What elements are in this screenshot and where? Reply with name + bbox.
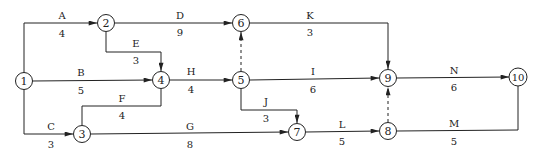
node-9: 9 (380, 70, 397, 87)
node-label: 5 (238, 74, 245, 87)
activity-duration-n: 6 (451, 82, 457, 93)
network-diagram: A 4 B 5 C 3 D 9 E 3 F 4 G 8 H 4 I 6 J 3 … (0, 0, 540, 157)
activity-name-i: I (311, 66, 315, 77)
activity-duration-b: 5 (78, 85, 84, 96)
edge-k (250, 23, 388, 69)
activity-duration-m: 5 (451, 136, 457, 147)
node-label: 2 (103, 17, 110, 30)
node-label: 1 (21, 75, 28, 88)
activity-name-c: C (47, 121, 55, 132)
activity-name-d: D (176, 10, 184, 21)
activity-duration-i: 6 (310, 84, 316, 95)
activity-duration-e: 3 (133, 55, 139, 66)
activity-duration-l: 5 (339, 136, 345, 147)
edge-n (397, 77, 509, 78)
edge-b (32, 80, 152, 81)
activity-name-e: E (132, 38, 139, 49)
activity-duration-f: 4 (119, 110, 125, 121)
node-7: 7 (289, 124, 306, 141)
node-1: 1 (16, 73, 33, 90)
activity-duration-h: 4 (188, 84, 194, 95)
node-label: 7 (294, 126, 301, 139)
activity-name-h: H (187, 66, 196, 77)
node-2: 2 (98, 15, 115, 32)
activity-duration-j: 3 (263, 113, 269, 124)
activity-name-g: G (186, 121, 194, 132)
activity-name-f: F (119, 93, 126, 104)
activity-duration-a: 4 (59, 28, 65, 39)
node-label: 6 (238, 17, 245, 30)
activity-duration-g: 8 (187, 139, 193, 150)
activity-duration-c: 3 (48, 139, 54, 150)
node-3: 3 (74, 126, 91, 143)
activity-duration-k: 3 (307, 27, 313, 38)
node-label: 10 (512, 72, 525, 83)
node-label: 3 (79, 128, 86, 141)
activity-duration-d: 9 (177, 27, 183, 38)
node-label: 9 (385, 72, 392, 85)
activity-name-m: M (449, 118, 459, 129)
node-4: 4 (153, 72, 170, 89)
activity-name-k: K (306, 10, 314, 21)
node-label: 4 (158, 74, 165, 87)
activity-name-l: L (339, 119, 346, 130)
node-label: 8 (385, 125, 392, 138)
activity-name-j: J (263, 96, 268, 107)
edge-i (250, 78, 379, 80)
node-5: 5 (233, 72, 250, 89)
edges (24, 23, 518, 134)
node-6: 6 (233, 15, 250, 32)
edge-l (306, 131, 379, 132)
node-8: 8 (380, 123, 397, 140)
edge-g (91, 132, 288, 134)
activity-name-a: A (57, 10, 66, 21)
activity-name-b: B (77, 67, 84, 78)
activity-name-n: N (450, 65, 459, 76)
node-10: 10 (509, 68, 527, 86)
